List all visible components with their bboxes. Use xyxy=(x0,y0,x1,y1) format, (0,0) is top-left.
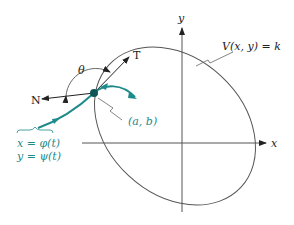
angle-label: θ xyxy=(78,64,85,77)
level-curve-label: V(x, y) = k xyxy=(222,40,281,53)
level-curve-leader xyxy=(196,52,233,66)
point-ab xyxy=(90,89,98,97)
normal-label: N xyxy=(31,94,41,107)
trajectory-arrow-3 xyxy=(128,92,137,99)
trajectory-eq-y: y = ψ(t) xyxy=(16,150,61,163)
y-axis-label: y xyxy=(177,12,185,25)
level-curve-diagram: x y V(x, y) = k T N θ (a, b) x = φ(t) y … xyxy=(0,0,294,225)
trajectory-eq-x: x = φ(t) xyxy=(17,137,60,150)
trajectory-curve xyxy=(38,86,135,128)
trajectory-arrow-1 xyxy=(52,118,60,124)
x-axis-label: x xyxy=(271,137,278,150)
point-leader xyxy=(98,98,122,120)
normal-vector xyxy=(42,93,94,99)
equation-brace xyxy=(17,127,53,133)
tangent-label: T xyxy=(133,49,141,62)
point-label: (a, b) xyxy=(128,115,157,128)
